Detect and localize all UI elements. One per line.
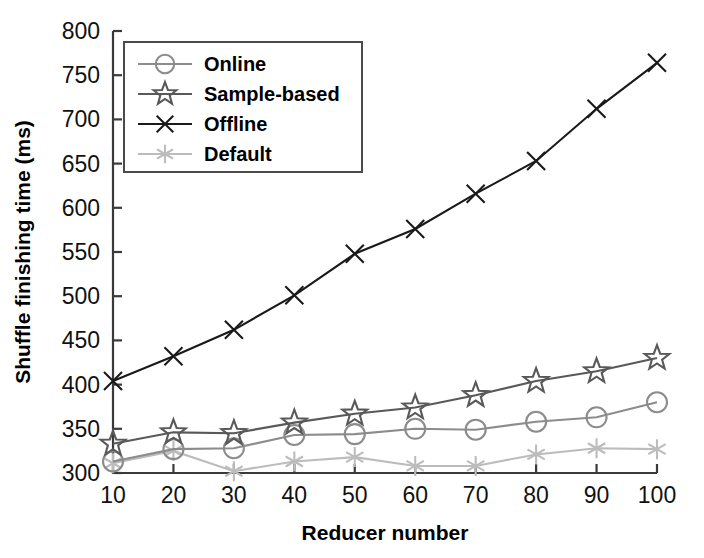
marker-star	[645, 345, 670, 369]
y-tick-label: 650	[62, 151, 100, 177]
legend-label: Sample-based	[204, 83, 340, 105]
line-chart: 3003504004505005506006507007508001020304…	[0, 0, 704, 558]
y-tick-label: 350	[62, 416, 100, 442]
legend-label: Offline	[204, 113, 267, 135]
marker-star	[222, 420, 247, 444]
marker-star	[524, 368, 549, 392]
x-tick-label: 20	[161, 482, 187, 508]
marker-star	[463, 382, 488, 406]
y-tick-label: 400	[62, 372, 100, 398]
y-tick-label: 450	[62, 327, 100, 353]
marker-star	[403, 395, 428, 419]
x-tick-label: 70	[463, 482, 489, 508]
marker-star	[584, 358, 609, 382]
x-tick-label: 10	[100, 482, 126, 508]
x-tick-label: 90	[584, 482, 610, 508]
x-tick-label: 60	[402, 482, 428, 508]
marker-x	[467, 185, 485, 203]
marker-x	[648, 54, 666, 72]
marker-x	[225, 321, 243, 339]
series-sample-based	[101, 345, 670, 454]
marker-star	[342, 401, 367, 425]
marker-x	[285, 286, 303, 304]
y-tick-label: 600	[62, 195, 100, 221]
chart-figure: 3003504004505005506006507007508001020304…	[0, 0, 704, 558]
chart-legend: OnlineSample-basedOfflineDefault	[124, 42, 362, 172]
legend-label: Default	[204, 143, 272, 165]
x-tick-label: 80	[523, 482, 549, 508]
y-tick-label: 500	[62, 283, 100, 309]
y-tick-label: 550	[62, 239, 100, 265]
legend-label: Online	[204, 53, 266, 75]
marker-x	[164, 347, 182, 365]
series-default	[104, 438, 665, 481]
x-tick-label: 30	[221, 482, 247, 508]
x-tick-label: 40	[282, 482, 308, 508]
marker-x	[346, 245, 364, 263]
y-tick-label: 750	[62, 62, 100, 88]
marker-x	[406, 220, 424, 238]
marker-x	[588, 100, 606, 118]
y-tick-label: 800	[62, 18, 100, 44]
marker-x	[527, 152, 545, 170]
y-axis-title: Shuffle finishing time (ms)	[11, 120, 34, 384]
y-tick-label: 700	[62, 106, 100, 132]
y-tick-label: 300	[62, 460, 100, 486]
x-axis-title: Reducer number	[302, 521, 469, 544]
x-tick-label: 100	[638, 482, 676, 508]
series-line	[113, 448, 657, 471]
x-tick-label: 50	[342, 482, 368, 508]
